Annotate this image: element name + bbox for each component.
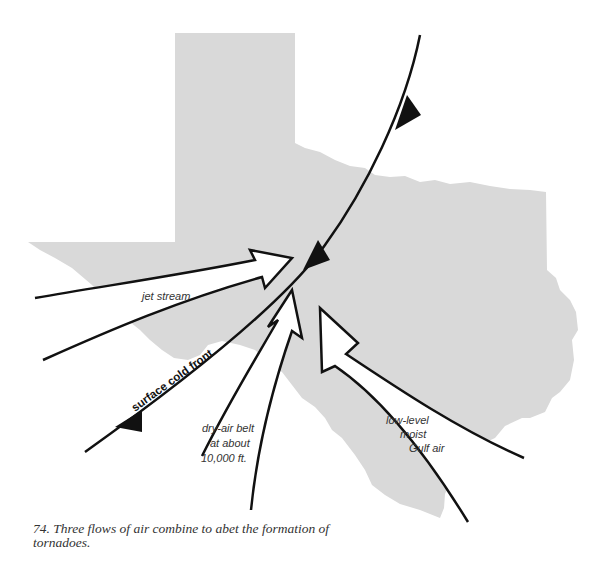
dry-air-label-line1: dry-air belt [202,422,255,434]
gulf-air-label-line1: low-level [386,414,429,426]
jet-stream-label: jet stream [140,290,190,302]
gulf-air-label-line3: Gulf air [409,442,446,454]
figure-caption: 74. Three flows of air combine to abet t… [33,522,353,550]
dry-air-label-line2: at about [210,437,251,449]
cold-front-triangle-icon [395,95,421,130]
dry-air-label-line3: 10,000 ft. [201,452,247,464]
gulf-air-label-line2: moist [400,428,427,440]
cold-front-label: surface cold front [129,347,215,414]
texas-air-flow-diagram: jet stream surface cold front dry-air be… [0,0,606,564]
